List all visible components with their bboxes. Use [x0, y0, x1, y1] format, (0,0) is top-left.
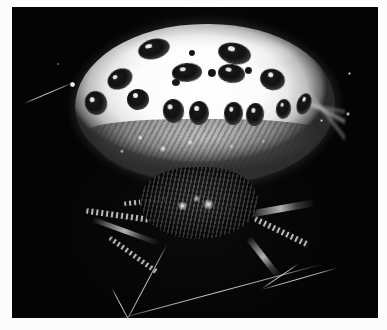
- fleck-abdomen-rim: [320, 119, 323, 122]
- photograph: [12, 7, 378, 318]
- fleck-right-mid: [346, 112, 350, 116]
- web-bead-upper-left: [70, 82, 75, 87]
- caption-margin: [0, 318, 387, 330]
- fleck-right-upper: [348, 72, 351, 75]
- photo-page: [0, 0, 387, 330]
- fleck-top-left: [57, 63, 59, 65]
- photo-background: [12, 7, 378, 318]
- specular-highlights: [12, 7, 378, 318]
